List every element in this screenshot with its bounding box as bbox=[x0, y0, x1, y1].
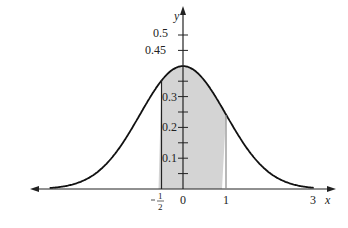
x-tick-1: 1 bbox=[223, 193, 229, 207]
y-tick-0.1: 0.1 bbox=[162, 151, 177, 165]
x-tick-neg-half: 1 2 bbox=[151, 191, 164, 212]
y-tick-0.3: 0.3 bbox=[162, 90, 177, 104]
x-axis-right-arrow-icon bbox=[327, 186, 336, 192]
svg-text:1: 1 bbox=[158, 191, 163, 201]
y-tick-0.5: 0.5 bbox=[153, 26, 168, 40]
y-tick-0.2: 0.2 bbox=[162, 120, 177, 134]
x-tick-0: 0 bbox=[180, 193, 186, 207]
y-axis-label: y bbox=[173, 9, 180, 23]
x-axis-left-arrow-icon bbox=[30, 186, 39, 192]
x-tick-3: 3 bbox=[310, 193, 316, 207]
x-axis-label: x bbox=[324, 193, 331, 207]
svg-text:2: 2 bbox=[158, 202, 163, 212]
normal-curve-chart: y 0.5 0.45 0.3 0.2 0.1 0 1 3 x 1 2 bbox=[0, 0, 348, 228]
y-tick-0.45: 0.45 bbox=[145, 43, 166, 57]
y-axis-arrow-icon bbox=[180, 6, 186, 15]
